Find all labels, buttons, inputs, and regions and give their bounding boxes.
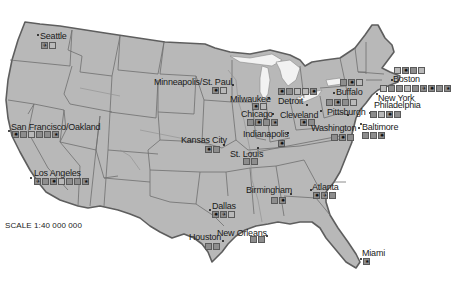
city-icons: ✹: [278, 140, 285, 147]
sun-icon: ✹: [212, 211, 219, 218]
building-icon: [74, 178, 81, 185]
sun-icon: ✹: [279, 197, 286, 204]
cup-icon: [250, 236, 257, 243]
airport-icon: ✈: [220, 211, 227, 218]
cup-icon: [36, 131, 43, 138]
wine-icon: [394, 67, 401, 74]
cup-icon: [342, 99, 349, 106]
city-label: Detroit: [278, 96, 303, 106]
star-icon: ★: [82, 178, 89, 185]
city-label: Birmingham: [246, 185, 292, 195]
sun-icon: ✹: [212, 87, 219, 94]
wine-icon: [228, 211, 235, 218]
scale-label: SCALE 1:40 000 000: [5, 221, 82, 230]
sun-icon: ✹: [313, 192, 320, 199]
city-icons: ✹ ✹: [278, 88, 317, 95]
city-icons: ✹: [340, 79, 363, 86]
landmark-icon: [356, 79, 363, 86]
sun-icon: ✹: [428, 85, 435, 92]
city-dot: [222, 240, 224, 242]
city-icons: ✹: [362, 132, 385, 139]
airport-icon: ✈: [321, 192, 328, 199]
city-icons: ✹ ✈: [313, 192, 336, 199]
museum-icon: [388, 85, 395, 92]
sun-icon: ✹: [348, 79, 355, 86]
city-icons: ✈: [41, 42, 56, 49]
city-dot: [37, 34, 39, 36]
landmark-icon: [418, 67, 425, 74]
city-label: Indianapolis: [243, 129, 289, 139]
sun-icon: ✹: [205, 146, 212, 153]
city-icons: ✹: [394, 67, 425, 74]
city-icons: ✹: [205, 146, 220, 153]
star-icon: ★: [444, 85, 451, 92]
city-label: Pittsburgh: [327, 107, 366, 117]
city-dot: [358, 127, 360, 129]
sun-icon: ✹: [300, 119, 307, 126]
city-label: Kansas City: [181, 135, 227, 145]
city-icons: ★: [363, 258, 370, 265]
sun-icon: ✹: [339, 134, 346, 141]
city-dot: [30, 177, 32, 179]
sun-icon: ✹: [310, 88, 317, 95]
sun-icon: ✹: [386, 111, 393, 118]
city-icons: [250, 236, 265, 243]
cup-icon: [205, 243, 212, 250]
wine-icon: [58, 178, 65, 185]
sun-icon: ✹: [50, 178, 57, 185]
city-label: Washington: [311, 123, 356, 133]
museum-icon: [213, 146, 220, 153]
cup-icon: [286, 88, 293, 95]
sun-icon: ✹: [255, 119, 262, 126]
sun-icon: ✹: [278, 88, 285, 95]
city-label: New York: [378, 93, 414, 103]
city-icons: ✹: [331, 134, 354, 141]
building-icon: [251, 158, 258, 165]
wine-icon: [378, 111, 385, 118]
building-icon: [213, 243, 220, 250]
ship-icon: [271, 197, 278, 204]
sun-icon: ✹: [378, 132, 385, 139]
city-icons: ✹ ★: [247, 119, 278, 126]
landmark-icon: [49, 42, 56, 49]
city-label: Baltimore: [362, 122, 398, 132]
city-icons: ✹: [212, 87, 227, 94]
star-icon: ★: [52, 131, 59, 138]
us-map: [0, 0, 456, 289]
ship-icon: [326, 99, 333, 106]
city-icons: ✈ ✹ ★: [34, 178, 89, 185]
city-dot: [333, 92, 335, 94]
airport-icon: ✈: [41, 42, 48, 49]
sun-icon: ✹: [12, 131, 19, 138]
sun-icon: ✹: [334, 99, 341, 106]
wine-icon: [294, 88, 301, 95]
city-label: Boston: [393, 74, 420, 84]
airport-icon: ✈: [34, 178, 41, 185]
city-icons: ✹ ★: [12, 131, 59, 138]
building-icon: [331, 134, 338, 141]
landmark-icon: [302, 88, 309, 95]
city-label: Seattle: [40, 31, 67, 41]
city-label: Atlanta: [312, 182, 339, 192]
building-icon: [258, 236, 265, 243]
sun-icon: ✹: [278, 140, 285, 147]
city-icons: ✈ ✹ ★: [380, 85, 451, 92]
city-icons: ✹: [326, 99, 357, 106]
tower-icon: [370, 111, 377, 118]
sun-icon: ✹: [402, 67, 409, 74]
wine-icon: [380, 85, 387, 92]
city-icons: ✹: [271, 197, 286, 204]
city-icons: ✹: [370, 111, 401, 118]
city-icons: ✹ ✈: [212, 211, 235, 218]
city-label: Minneapolis/St. Paul: [154, 77, 232, 87]
ship-icon: [362, 132, 369, 139]
cup-icon: [412, 85, 419, 92]
building-icon: [436, 85, 443, 92]
city-dot: [306, 104, 308, 106]
city-dot: [209, 209, 211, 211]
building-icon: [263, 119, 270, 126]
city-label: Dallas: [212, 201, 236, 211]
tower-icon: [396, 85, 403, 92]
city-dot: [8, 130, 10, 132]
museum-icon: [340, 79, 347, 86]
